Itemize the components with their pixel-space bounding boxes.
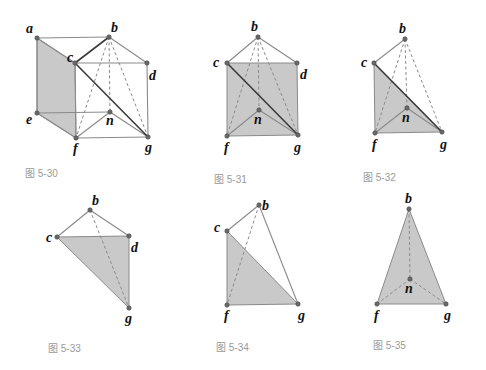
figure-caption: 图 5-30 [25, 168, 58, 179]
vertex-c [73, 61, 77, 65]
vertex-g [296, 302, 300, 306]
hidden-edge-bg [109, 37, 148, 137]
figure-caption: 图 5-34 [216, 342, 249, 353]
vertex-label-g: g [124, 311, 132, 326]
figure-5-30: abcdenfg图 5-30 [25, 20, 157, 179]
figure-caption: 图 5-31 [214, 174, 247, 185]
vertex-c [372, 61, 376, 65]
vertex-c [225, 229, 229, 233]
vertex-f [225, 134, 229, 138]
vertex-label-f: f [73, 141, 79, 156]
vertex-label-a: a [26, 21, 33, 36]
vertex-label-f: f [224, 140, 230, 155]
vertex-label-f: f [372, 137, 378, 152]
vertex-label-b: b [251, 19, 258, 34]
vertex-label-n: n [402, 110, 410, 125]
vertex-label-g: g [439, 137, 447, 152]
vertex-label-g: g [144, 140, 152, 155]
vertex-label-g: g [293, 140, 301, 155]
vertex-label-c: c [213, 55, 220, 70]
vertex-label-n: n [405, 281, 413, 296]
vertex-label-f: f [224, 308, 230, 323]
vertex-c [225, 61, 229, 65]
figure-caption: 图 5-35 [373, 340, 406, 351]
edge-bc [57, 210, 90, 237]
figure-5-32: bcnfg图 5-32 [361, 21, 447, 183]
vertex-e [35, 111, 39, 115]
vertex-label-b: b [92, 193, 99, 208]
edge-bd [109, 37, 147, 63]
figure-5-33: bcdg图 5-33 [46, 193, 139, 354]
edge-bd [90, 210, 129, 236]
vertex-b [256, 35, 260, 39]
shaded-face-cgf [227, 231, 298, 305]
edge-fg [76, 137, 148, 138]
figure-caption: 图 5-33 [48, 343, 81, 354]
vertex-label-c: c [361, 55, 368, 70]
vertex-g [146, 135, 150, 139]
vertex-f [373, 131, 377, 135]
hidden-edge-bf [76, 37, 109, 138]
vertex-label-d: d [300, 67, 308, 82]
vertex-label-e: e [26, 112, 32, 127]
vertex-label-c: c [214, 220, 221, 235]
vertex-label-n: n [254, 112, 262, 127]
vertex-label-d: d [149, 68, 157, 83]
vertex-f [74, 136, 78, 140]
vertex-g [296, 133, 300, 137]
shaded-face-cdg [57, 236, 129, 308]
vertex-a [35, 36, 39, 40]
vertex-label-c: c [67, 50, 74, 65]
vertex-label-d: d [131, 240, 139, 255]
edge-bd [258, 37, 297, 63]
bold-edge-cb [75, 37, 109, 63]
figure-5-35: bnfg图 5-35 [373, 191, 451, 351]
vertex-f [225, 303, 229, 307]
figure-5-31: bcdnfg图 5-31 [213, 19, 308, 185]
vertex-b [88, 208, 92, 212]
hidden-edge-bn [109, 37, 110, 112]
edge-dg [147, 63, 148, 137]
vertex-b [407, 207, 411, 211]
vertex-c [55, 235, 59, 239]
vertex-b [257, 203, 261, 207]
geometry-figures-page: abcdenfg图 5-30 bcdnfg图 5-31 bcnfg图 5-32 … [0, 0, 486, 370]
vertex-label-c: c [46, 230, 53, 245]
edge-ab [37, 37, 109, 38]
vertex-g [444, 302, 448, 306]
vertex-label-b: b [405, 191, 412, 206]
vertex-label-b: b [111, 20, 118, 35]
vertex-b [107, 35, 111, 39]
vertex-f [375, 302, 379, 306]
vertex-g [440, 130, 444, 134]
figure-caption: 图 5-32 [363, 172, 396, 183]
vertex-label-b: b [399, 21, 406, 36]
vertex-b [403, 37, 407, 41]
vertex-label-g: g [443, 308, 451, 323]
edge-fn [76, 112, 110, 138]
edge-bc [227, 37, 258, 63]
edge-ng [110, 112, 148, 137]
vertex-g [127, 306, 131, 310]
edge-bc [374, 39, 405, 63]
vertex-d [145, 61, 149, 65]
vertex-label-g: g [297, 308, 305, 323]
figure-5-34: bcfg图 5-34 [214, 198, 305, 353]
vertex-label-f: f [374, 308, 380, 323]
vertex-d [295, 61, 299, 65]
vertex-label-b: b [262, 198, 269, 213]
vertex-d [127, 234, 131, 238]
vertex-label-n: n [106, 113, 114, 128]
edge-bc [227, 205, 259, 231]
